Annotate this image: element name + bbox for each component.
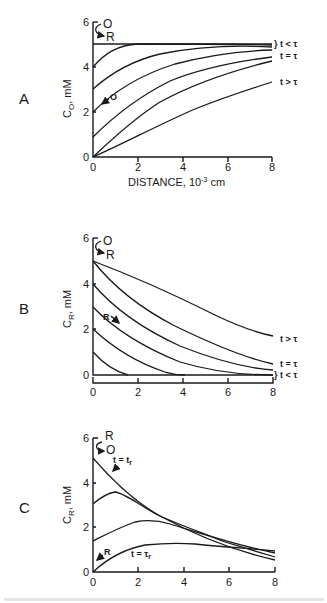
- panel-c-ytick-4: 4: [83, 477, 89, 489]
- panel-b-arrow-label: R: [103, 312, 110, 322]
- panel-b-ylabel: CR, mM: [61, 290, 76, 328]
- panel-b-letter: B: [19, 300, 29, 317]
- panel-c-label-tr: t = tr: [113, 455, 132, 466]
- arrow-icon: [102, 99, 109, 104]
- panel-b-legend-lt: } t < τ: [274, 370, 297, 380]
- panel-c-xtick-4: 4: [181, 576, 187, 588]
- panel-a-legend-gt: t > τ: [280, 77, 297, 87]
- panel-a-ytick-6: 6: [83, 16, 89, 28]
- panel-c-arrow-label: R: [104, 547, 111, 557]
- panel-b-legend-eq: t = τ: [280, 359, 297, 369]
- panel-a-arrow-label: O: [110, 92, 117, 102]
- panel-b: B CR, mM 6 4 2 0 0 2 4 6 8 O R R t >: [19, 232, 297, 398]
- panel-a-legend-eq: t = τ: [280, 51, 297, 61]
- panel-b-rxn-r: R: [106, 248, 115, 262]
- panel-a-legend-lt: } t < τ: [274, 39, 297, 49]
- panel-c-xtick-0: 0: [90, 576, 96, 588]
- panel-b-xaxis-scale: [93, 377, 273, 383]
- panel-b-legend-gt: t > τ: [280, 334, 297, 344]
- figure-canvas: A CO, mM 6 4 2 0 0 2 4 6 8 DISTANCE, 10-…: [0, 0, 327, 603]
- panel-c-ylabel: CR, mM: [61, 486, 76, 524]
- panel-b-ytick-0: 0: [83, 369, 89, 381]
- panel-c-xtick-2: 2: [135, 576, 141, 588]
- panel-b-ytick-4: 4: [83, 278, 89, 290]
- panel-a-rxn-o: O: [103, 17, 112, 31]
- panel-c: C CR, mM 6 4 2 0 0 2 4 6 8 R O t = tr R …: [19, 429, 278, 588]
- panel-b-axes: [93, 238, 273, 375]
- panel-a-ytick-2: 2: [83, 106, 89, 118]
- panel-b-xtick-4: 4: [180, 386, 186, 398]
- panel-a-xtick-2: 2: [135, 161, 141, 173]
- panel-a-curves: [93, 44, 272, 157]
- panel-a-xlabel: DISTANCE, 10-3 cm: [128, 176, 225, 188]
- panel-c-letter: C: [19, 499, 30, 516]
- panel-c-xtick-8: 8: [272, 576, 278, 588]
- panel-c-ytick-2: 2: [83, 521, 89, 533]
- panel-a-ytick-0: 0: [83, 151, 89, 163]
- panel-a-xtick-8: 8: [269, 161, 275, 173]
- arrow-icon: [111, 316, 119, 323]
- panel-b-xtick-2: 2: [135, 386, 141, 398]
- panel-a-rxn-r: R: [106, 30, 115, 44]
- arrow-icon: [113, 466, 118, 471]
- caption-fragment: [4, 598, 324, 601]
- panel-b-ytick-6: 6: [83, 232, 89, 244]
- panel-a-xtick-0: 0: [90, 161, 96, 173]
- panel-c-ytick-6: 6: [83, 432, 89, 444]
- panel-b-rxn-o: O: [103, 234, 112, 248]
- panel-a-ylabel: CO, mM: [61, 79, 76, 118]
- panel-c-rxn-r: R: [105, 429, 114, 443]
- panel-c-ytick-0: 0: [83, 566, 89, 578]
- panel-a-letter: A: [19, 90, 29, 107]
- panel-a-xtick-6: 6: [225, 161, 231, 173]
- reaction-arrow-icon: [97, 442, 104, 451]
- panel-b-xtick-0: 0: [90, 386, 96, 398]
- panel-c-label-tau-r: t = τr: [131, 549, 151, 560]
- panel-c-curves: [93, 458, 275, 572]
- panel-b-curves: [93, 261, 273, 375]
- panel-a-xtick-4: 4: [180, 161, 186, 173]
- panel-b-ytick-2: 2: [83, 323, 89, 335]
- panel-b-xtick-8: 8: [270, 386, 276, 398]
- arrow-icon: [97, 555, 103, 560]
- panel-c-xtick-6: 6: [226, 576, 232, 588]
- panel-a-ytick-4: 4: [83, 61, 89, 73]
- panel-b-xtick-6: 6: [225, 386, 231, 398]
- panel-a: A CO, mM 6 4 2 0 0 2 4 6 8 DISTANCE, 10-…: [19, 16, 297, 188]
